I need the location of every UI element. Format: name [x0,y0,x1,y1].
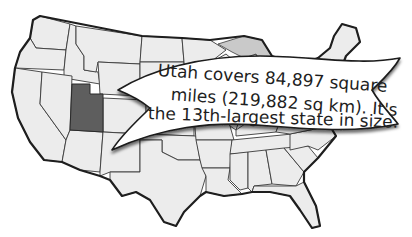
utah-map-illustration: Utah covers 84,897 square miles (219,882… [0,0,412,237]
state-north-dakota [140,36,184,62]
state-utah-highlighted [70,84,103,132]
state-arkansas [196,140,232,168]
state-florida [252,182,320,228]
